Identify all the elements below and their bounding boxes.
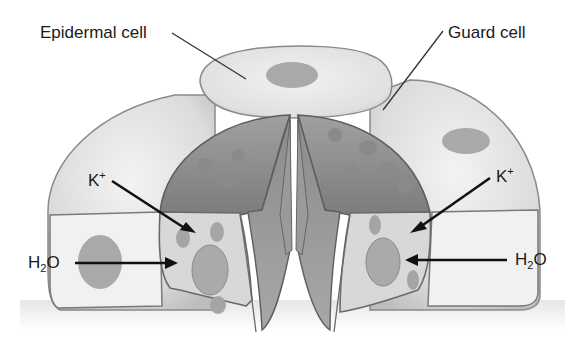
- top-epidermal-cell: [200, 46, 392, 118]
- right-guard-nucleus: [366, 238, 400, 286]
- guard-cell-text: Guard cell: [448, 23, 525, 42]
- guard-cell-label: Guard cell: [448, 24, 525, 41]
- h2o-left-o: O: [46, 253, 59, 272]
- left-guard-nucleus: [192, 245, 228, 295]
- right-epidermal-nucleus: [442, 128, 490, 154]
- top-epidermal-nucleus: [266, 62, 318, 88]
- epidermal-cell-label: Epidermal cell: [40, 24, 147, 41]
- k-ion-left-label: K+: [88, 170, 106, 189]
- h2o-right-h: H: [515, 250, 527, 269]
- k-left-charge: +: [99, 169, 105, 181]
- water-left-label: H2O: [28, 254, 60, 274]
- epidermal-cell-text: Epidermal cell: [40, 23, 147, 42]
- k-right-base: K: [496, 167, 507, 186]
- water-right-label: H2O: [515, 251, 547, 271]
- k-left-base: K: [88, 171, 99, 190]
- h2o-left-h: H: [28, 253, 40, 272]
- stomata-diagram: Epidermal cell Guard cell K+ K+ H2O H2O: [0, 0, 583, 363]
- h2o-right-o: O: [533, 250, 546, 269]
- k-ion-right-label: K+: [496, 166, 514, 185]
- k-right-charge: +: [507, 165, 513, 177]
